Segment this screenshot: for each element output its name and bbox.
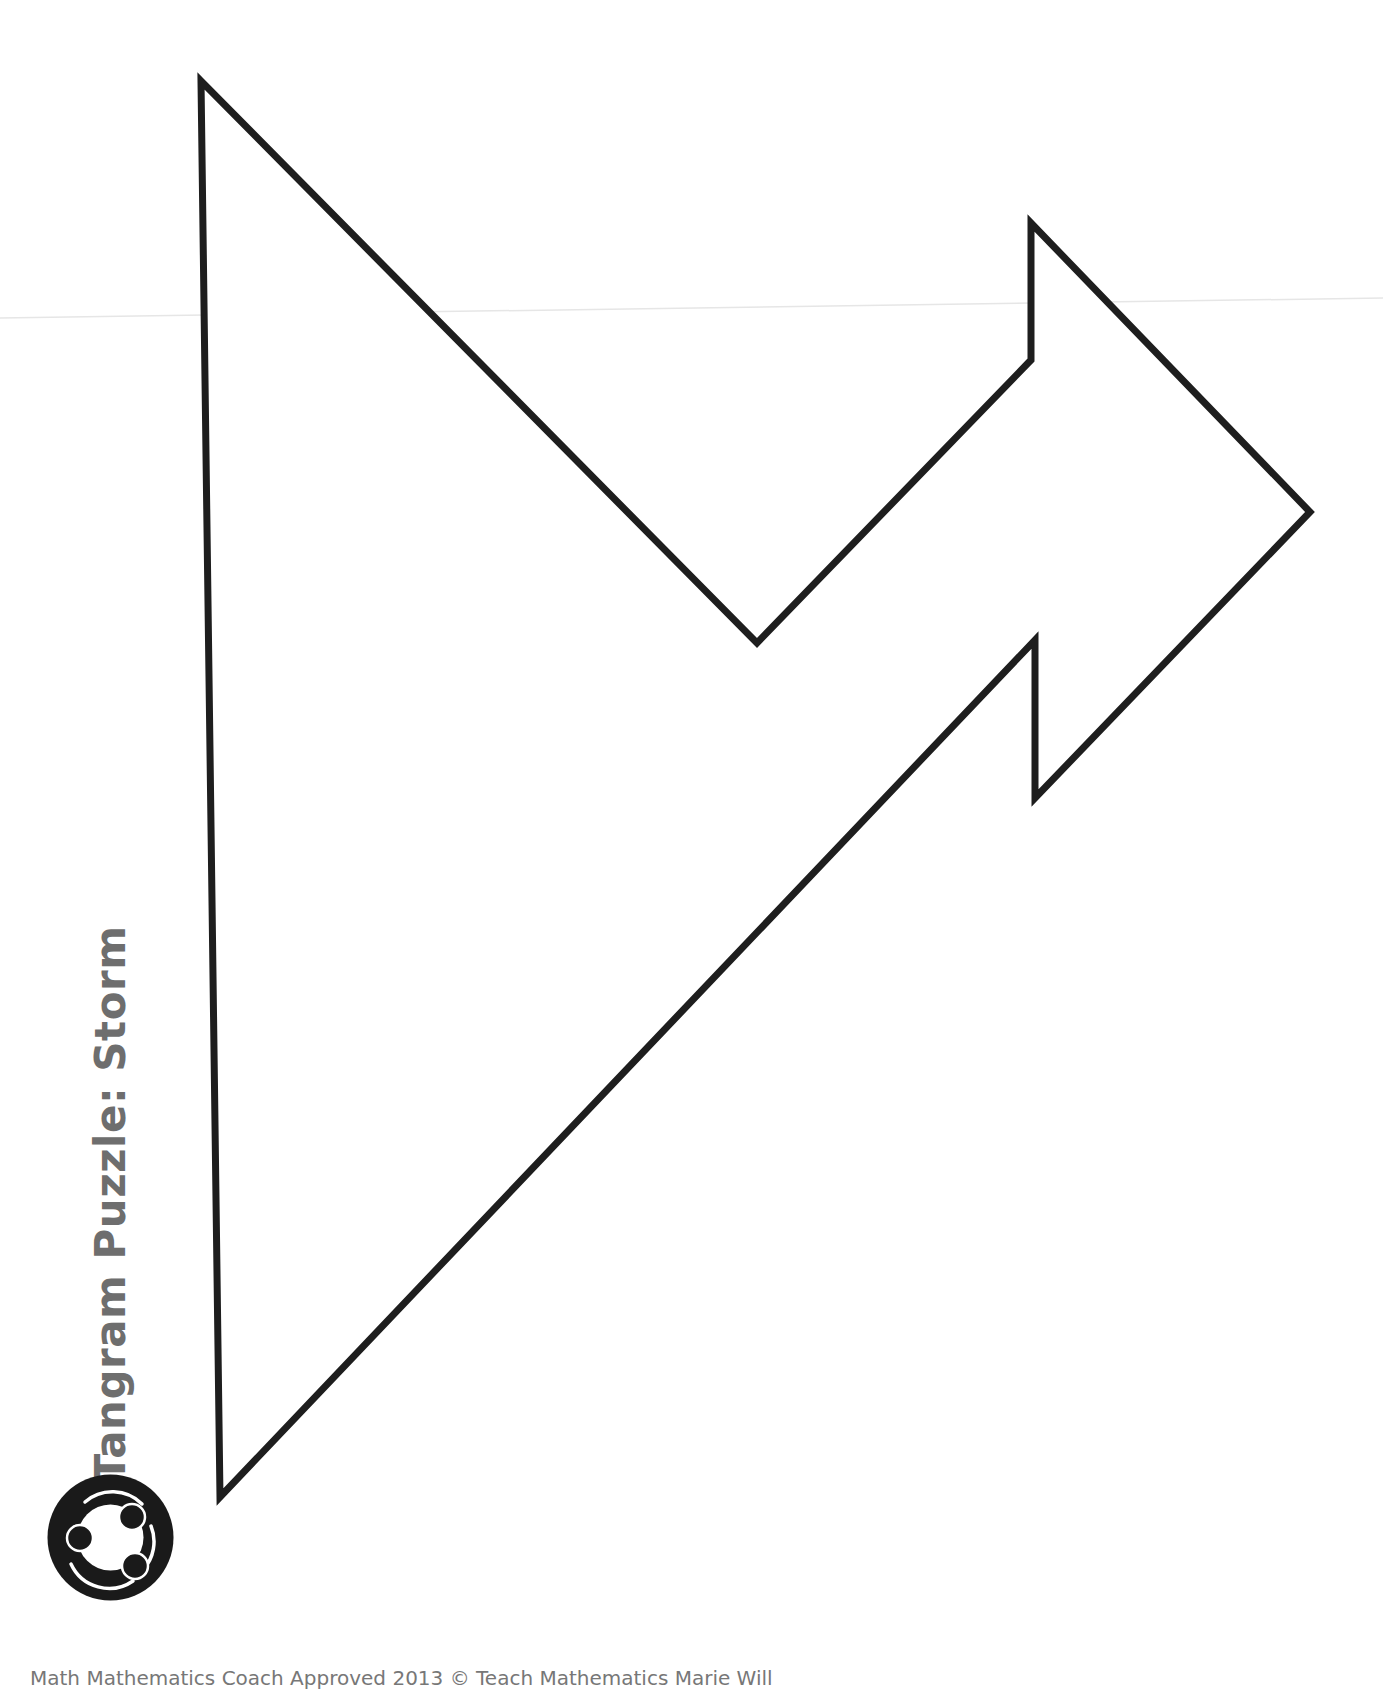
footer-credit: Math Mathematics Coach Approved 2013 © T… <box>30 1668 773 1688</box>
title-prefix: Tangram <box>86 1260 135 1483</box>
worksheet-title: Tangram Puzzle: Storm <box>86 925 135 1482</box>
title-main: Puzzle: Storm <box>86 925 135 1259</box>
three-people-circle-logo-icon <box>47 1474 174 1601</box>
tangram-storm-outline <box>201 81 1310 1497</box>
